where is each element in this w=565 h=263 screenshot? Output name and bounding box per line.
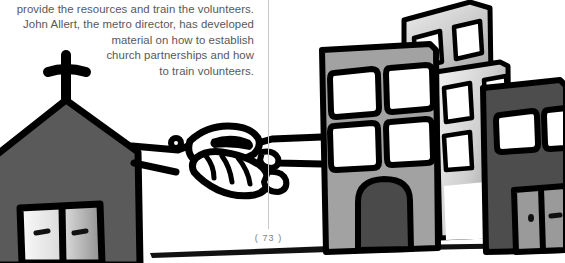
handshake	[132, 126, 322, 196]
page-number: ( 73 )	[0, 233, 537, 243]
body-text-line-5: to train volunteers.	[0, 64, 262, 79]
body-text-line-2: John Allert, the metro director, has dev…	[0, 17, 262, 32]
body-text-block: provide the resources and train the volu…	[0, 0, 262, 79]
dark-gray-apartment-building	[483, 80, 565, 252]
church-building	[0, 55, 140, 263]
body-text-line-1: provide the resources and train the volu…	[0, 2, 262, 17]
mid-gray-apartment-building	[322, 44, 438, 252]
book-page: provide the resources and train the volu…	[0, 0, 565, 263]
gutter-rule	[268, 0, 269, 229]
body-text-line-3: material on how to establish	[0, 33, 262, 48]
body-text-line-4: church partnerships and how	[0, 48, 262, 63]
